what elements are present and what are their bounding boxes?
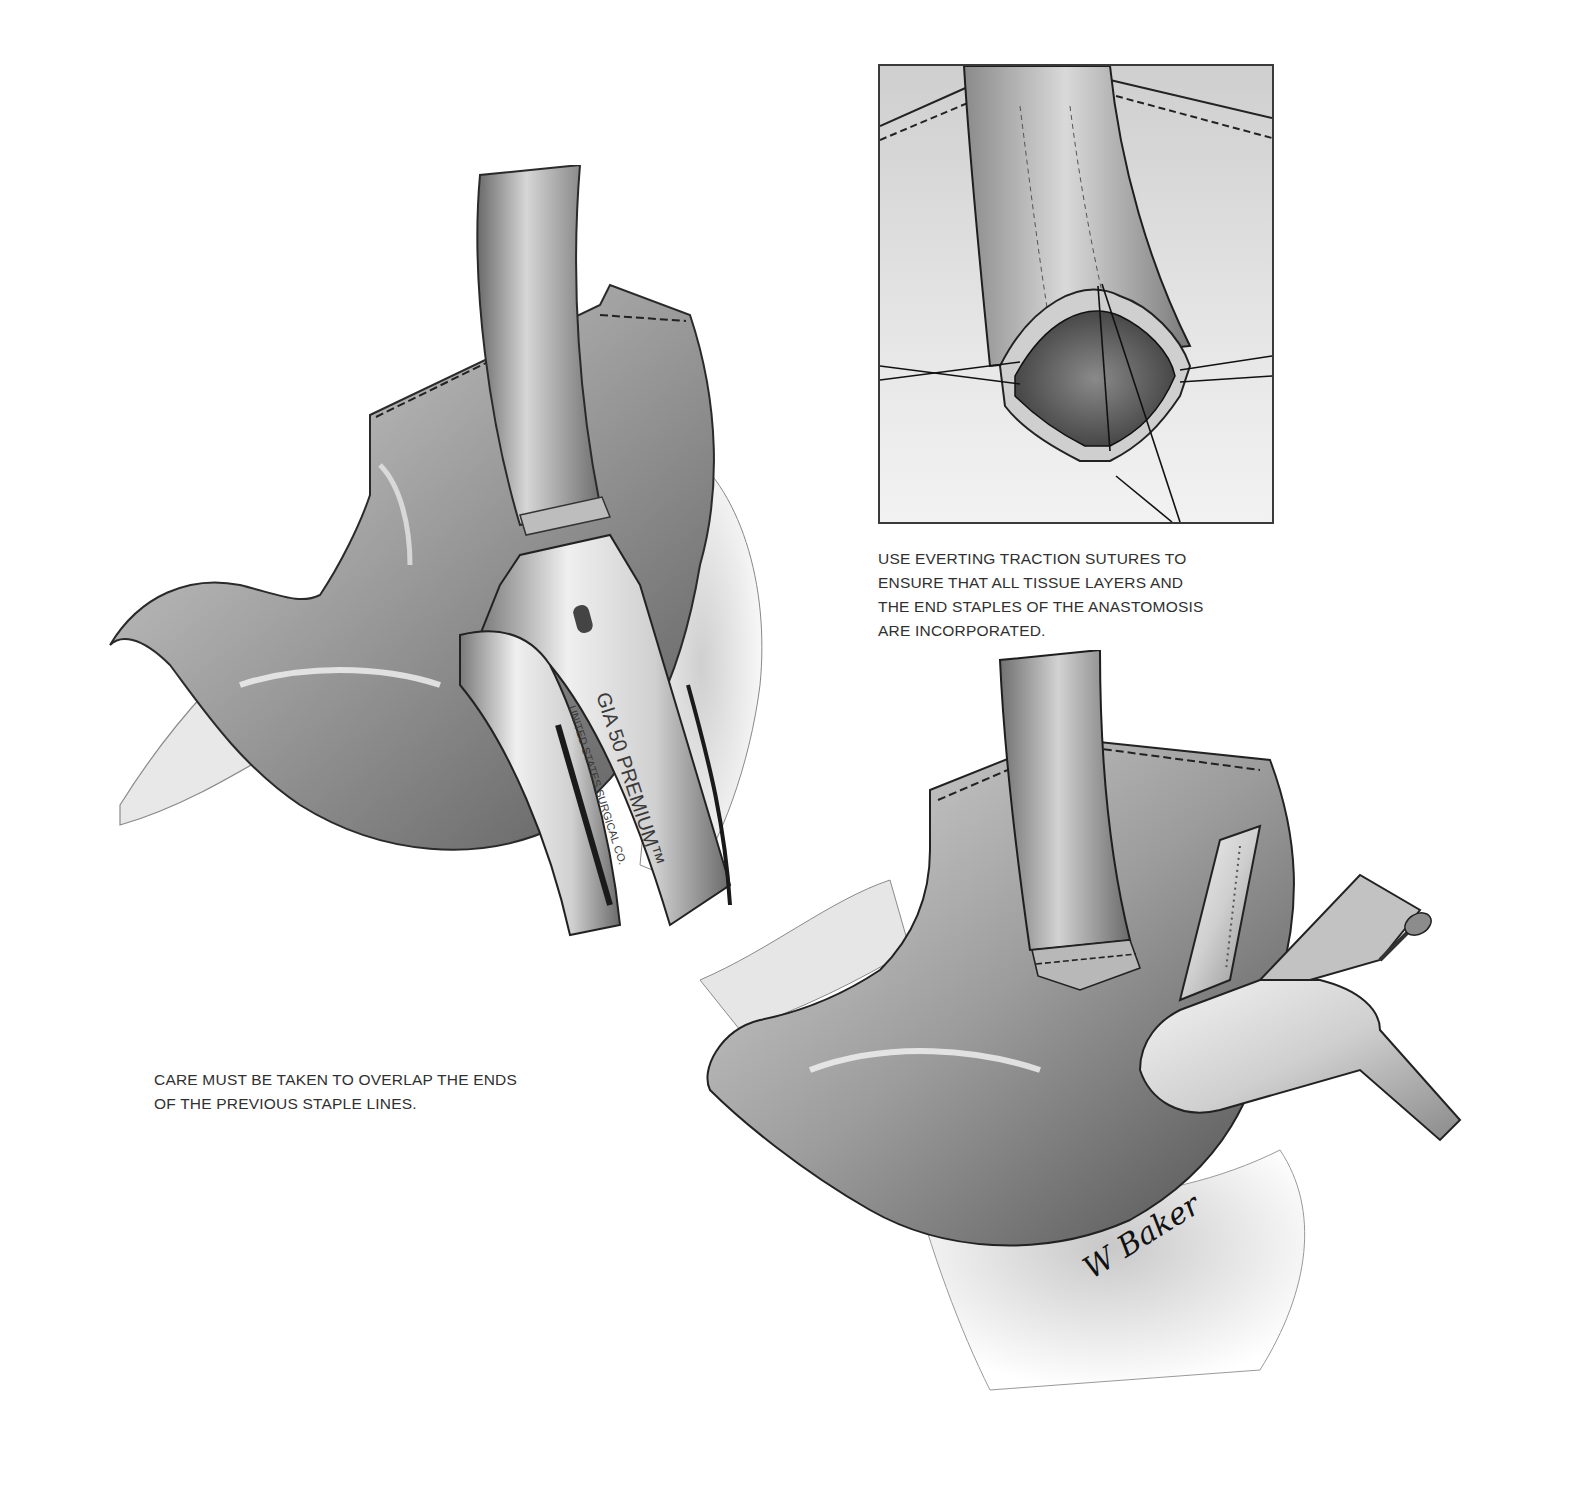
inset-caption: USE EVERTING TRACTION SUTURES TO ENSURE … bbox=[878, 547, 1278, 643]
left-caption: CARE MUST BE TAKEN TO OVERLAP THE ENDS O… bbox=[154, 1068, 604, 1116]
stomach-ta-stapler-drawing: W Baker bbox=[660, 650, 1500, 1410]
right-illustration: W Baker bbox=[660, 650, 1500, 1410]
anastomosis-closeup-drawing bbox=[880, 66, 1272, 522]
inset-illustration-frame bbox=[878, 64, 1274, 524]
